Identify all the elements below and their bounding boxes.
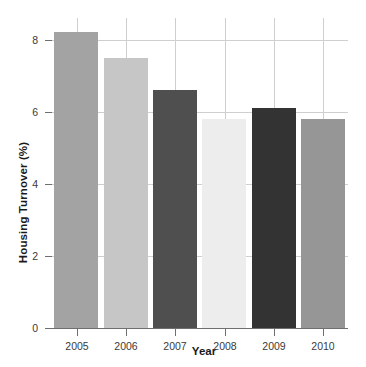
bar-2010 (301, 119, 345, 328)
x-axis-line (52, 328, 348, 329)
x-tick-mark (323, 329, 324, 336)
x-tick-mark (274, 329, 275, 336)
x-tick-mark (175, 329, 176, 336)
y-tick-mark (45, 40, 52, 41)
y-tick-mark (45, 112, 52, 113)
y-tick-label: 4 (12, 179, 38, 190)
bar-2008 (202, 119, 246, 328)
y-tick-label: 0 (12, 323, 38, 334)
bar-2006 (104, 58, 148, 328)
x-tick-label: 2010 (293, 341, 353, 352)
y-tick-label: 8 (12, 35, 38, 46)
housing-turnover-bar-chart: Housing Turnover (%) Year 02468200520062… (0, 0, 366, 367)
y-tick-mark (45, 256, 52, 257)
y-tick-label: 2 (12, 251, 38, 262)
y-tick-mark (45, 328, 52, 329)
bar-2005 (54, 32, 98, 328)
bar-2009 (252, 108, 296, 328)
y-tick-label: 6 (12, 107, 38, 118)
plot-area (52, 18, 348, 310)
bar-2007 (153, 90, 197, 328)
y-axis-title-text: Housing Turnover (%) (17, 142, 29, 263)
x-tick-mark (126, 329, 127, 336)
x-tick-mark (225, 329, 226, 336)
x-tick-mark (77, 329, 78, 336)
y-tick-mark (45, 184, 52, 185)
